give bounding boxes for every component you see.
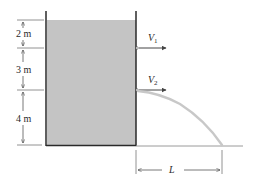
dim-label-4m: 4 m (16, 113, 32, 124)
jet-trajectory (138, 91, 222, 145)
velocity-label-v2: V2 (148, 74, 158, 87)
water-body (47, 20, 136, 145)
dim-label-3m: 3 m (16, 64, 32, 75)
orifice-1 (136, 47, 139, 50)
dim-label-2m: 2 m (16, 28, 32, 39)
range-label-L: L (168, 164, 175, 175)
velocity-label-v1: V1 (148, 32, 158, 45)
tank-diagram: 2 m 3 m 4 m V1 V2 L (0, 0, 258, 184)
